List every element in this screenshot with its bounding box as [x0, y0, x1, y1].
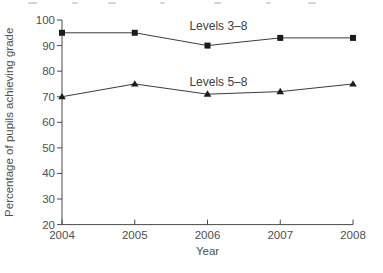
svg-text:80: 80	[42, 65, 55, 77]
svg-text:Year: Year	[196, 245, 219, 257]
svg-text:100: 100	[36, 14, 55, 26]
svg-text:2008: 2008	[340, 229, 366, 241]
svg-text:2004: 2004	[49, 229, 75, 241]
line-chart: 203040506070809010020042005200620072008Y…	[0, 0, 383, 273]
svg-text:50: 50	[42, 142, 55, 154]
svg-text:Percentage of pupils achieving: Percentage of pupils achieving grade	[3, 28, 15, 217]
svg-text:30: 30	[42, 193, 55, 205]
svg-text:2005: 2005	[122, 229, 148, 241]
svg-text:2006: 2006	[195, 229, 221, 241]
svg-text:40: 40	[42, 167, 55, 179]
svg-text:90: 90	[42, 40, 55, 52]
svg-text:Levels 3–8: Levels 3–8	[189, 19, 247, 33]
figure-canvas: 203040506070809010020042005200620072008Y…	[0, 0, 383, 273]
svg-text:Levels 5–8: Levels 5–8	[189, 75, 247, 89]
svg-text:60: 60	[42, 116, 55, 128]
svg-text:2007: 2007	[267, 229, 293, 241]
svg-text:70: 70	[42, 91, 55, 103]
